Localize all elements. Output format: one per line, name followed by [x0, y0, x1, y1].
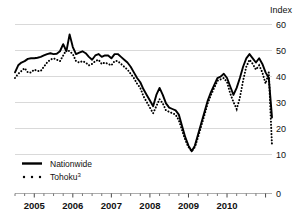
series-line-tohoku — [15, 50, 272, 151]
legend-dot-3 — [39, 176, 41, 178]
y-tick-label-50: 50 — [276, 46, 286, 56]
legend-label-tohoku: Tohoku3 — [50, 172, 81, 182]
legend-dot-2 — [31, 176, 33, 178]
x-tick-label-2005: 2005 — [24, 200, 46, 211]
y-axis-labels: Index 60 50 40 30 20 10 0 — [270, 5, 293, 199]
x-tick-label-2008: 2008 — [139, 200, 160, 211]
series-group — [15, 34, 272, 151]
line-chart: Index 60 50 40 30 20 10 0 20052006200720… — [0, 0, 305, 223]
chart-container: Index 60 50 40 30 20 10 0 20052006200720… — [0, 0, 305, 223]
y-tick-label-30: 30 — [276, 98, 286, 108]
y-tick-label-10: 10 — [276, 150, 286, 160]
y-tick-label-0: 0 — [276, 189, 281, 199]
x-tick-label-2010: 2010 — [216, 200, 237, 211]
legend-label-nationwide: Nationwide — [50, 159, 92, 169]
y-tick-label-60: 60 — [276, 20, 286, 30]
legend: Nationwide Tohoku3 — [22, 159, 92, 183]
x-axis-labels: 200520062007200820092010 — [24, 200, 238, 211]
x-tick-label-2009: 2009 — [178, 200, 199, 211]
y-axis-title: Index — [270, 5, 293, 15]
legend-dot-1 — [23, 176, 25, 178]
x-axis-ticks — [15, 194, 266, 198]
series-line-nationwide — [15, 34, 272, 151]
y-tick-label-20: 20 — [276, 124, 286, 134]
x-tick-label-2007: 2007 — [101, 200, 122, 211]
x-tick-label-2006: 2006 — [62, 200, 83, 211]
y-tick-label-40: 40 — [276, 72, 286, 82]
